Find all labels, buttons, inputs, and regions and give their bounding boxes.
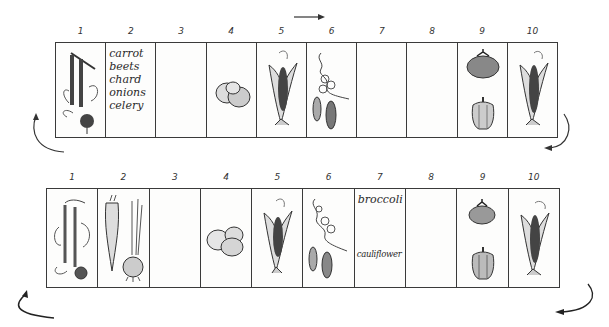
bed-number: 3 xyxy=(150,172,200,182)
bed-number: 2 xyxy=(106,26,155,36)
bed-number: 4 xyxy=(201,172,251,182)
pea-vine-icon xyxy=(305,195,351,279)
bed-4: 4 xyxy=(207,43,257,137)
bed-10: 10 xyxy=(509,189,559,287)
bed-number: 7 xyxy=(355,172,405,182)
bed-6: 6 xyxy=(303,189,354,287)
bed-5: 5 xyxy=(257,43,307,137)
tomato-icon xyxy=(467,199,497,225)
bed-number: 6 xyxy=(303,172,353,182)
pepper-icon xyxy=(470,245,496,281)
bed-number: 2 xyxy=(98,172,148,182)
bed-number: 8 xyxy=(407,26,456,36)
bed-3: 3 xyxy=(156,43,206,137)
bed-9: 9 xyxy=(458,43,508,137)
garden-row-top: 1 2 carrot beets chard onions celery 3 4… xyxy=(55,42,558,138)
bed-2-notes: carrot beets chard onions celery xyxy=(106,43,155,112)
bed-number: 9 xyxy=(458,26,507,36)
bed-9: 9 xyxy=(457,189,508,287)
bed-number: 5 xyxy=(252,172,302,182)
bed-7: 7 broccoli cauliflower xyxy=(355,189,406,287)
bed-number: 7 xyxy=(357,26,406,36)
rotation-arrow-left-top xyxy=(28,112,68,160)
corn-icon xyxy=(517,199,553,283)
potato-icon xyxy=(205,225,249,257)
direction-arrow-right xyxy=(292,12,328,22)
bed-number: 10 xyxy=(509,172,559,182)
garden-row-bottom: 1 2 3 4 5 xyxy=(46,188,560,288)
bed-number: 1 xyxy=(56,26,105,36)
bed-number: 5 xyxy=(257,26,306,36)
rotation-arrow-right-bottom xyxy=(548,282,598,322)
beet-chard-icon xyxy=(51,197,95,285)
pepper-icon xyxy=(469,95,497,131)
cauliflower-label: cauliflower xyxy=(357,249,402,259)
bed-6: 6 xyxy=(307,43,357,137)
note-line: carrot xyxy=(109,47,155,60)
onion-icon xyxy=(118,197,148,283)
tomato-icon xyxy=(465,49,501,79)
bed-number: 6 xyxy=(307,26,356,36)
corn-icon xyxy=(260,197,296,281)
bed-4: 4 xyxy=(201,189,252,287)
note-line: celery xyxy=(109,99,155,112)
bed-number: 8 xyxy=(406,172,456,182)
bed-3: 3 xyxy=(150,189,201,287)
note-line: beets xyxy=(109,60,155,73)
bed-5: 5 xyxy=(252,189,303,287)
pea-vine-icon xyxy=(309,49,355,133)
note-line: chard xyxy=(109,73,155,86)
bed-2: 2 carrot beets chard onions celery xyxy=(106,43,156,137)
bed-number: 9 xyxy=(457,172,507,182)
rotation-arrow-left-bottom xyxy=(6,288,56,324)
bed-1: 1 xyxy=(47,189,98,287)
bed-7: 7 xyxy=(357,43,407,137)
bed-8: 8 xyxy=(406,189,457,287)
bed-number: 3 xyxy=(156,26,205,36)
potato-icon xyxy=(213,79,253,109)
note-line: onions xyxy=(109,86,155,99)
rotation-arrow-right-top xyxy=(540,110,580,154)
bed-2: 2 xyxy=(98,189,149,287)
broccoli-label: broccoli xyxy=(358,193,403,206)
bed-number: 10 xyxy=(508,26,557,36)
bed-8: 8 xyxy=(407,43,457,137)
bed-number: 1 xyxy=(47,172,97,182)
corn-icon xyxy=(265,49,301,133)
bed-number: 4 xyxy=(207,26,256,36)
